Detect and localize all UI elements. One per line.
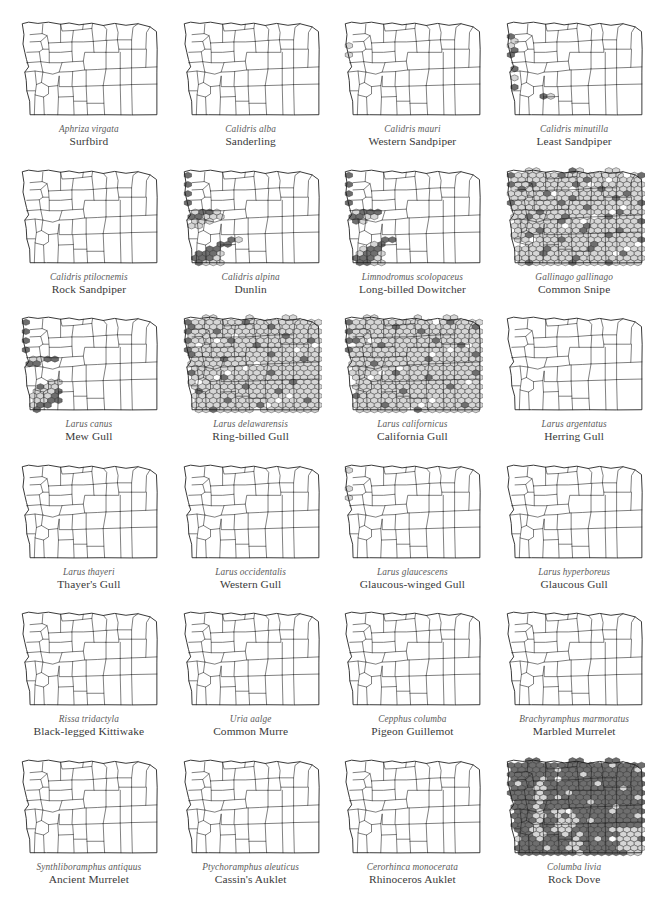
county-boundary [131,674,156,675]
county-boundary [25,71,43,72]
county-boundary [72,467,83,485]
county-boundary [631,67,642,68]
oregon-distribution-map[interactable] [503,313,645,417]
county-boundary [282,823,283,853]
county-boundary [131,174,149,196]
oregon-distribution-map[interactable] [503,166,645,270]
oregon-distribution-map[interactable] [180,461,322,565]
county-boundary [234,24,245,42]
county-boundary [558,347,579,356]
oregon-distribution-map[interactable] [341,461,483,565]
county-boundary [106,24,118,41]
county-boundary [72,614,83,632]
county-boundary [248,86,265,104]
scientific-name: Calidris ptilocnemis [50,272,128,282]
county-boundary [26,209,40,210]
county-boundary [202,478,208,484]
county-boundary [544,382,559,392]
oregon-distribution-map[interactable] [180,313,322,417]
oregon-distribution-map[interactable] [180,166,322,270]
oregon-distribution-map[interactable] [18,18,160,122]
county-boundary [255,468,268,484]
oregon-distribution-map[interactable] [18,608,160,712]
oregon-distribution-map[interactable] [180,18,322,122]
county-boundary [444,215,455,232]
county-boundary [293,492,308,511]
county-boundary [268,197,281,200]
county-boundary [455,469,473,491]
county-boundary [93,40,106,52]
county-boundary [410,823,427,841]
county-boundary [34,95,35,115]
county-boundary [35,675,48,687]
county-boundary [534,641,557,652]
county-boundary [248,69,268,86]
county-boundary [43,245,44,263]
county-boundary [524,494,534,505]
county-boundary [48,632,71,642]
county-boundary [591,466,603,483]
county-boundary [578,25,591,41]
county-boundary [244,761,254,767]
county-boundary [120,658,131,675]
oregon-distribution-map[interactable] [503,608,645,712]
county-boundary [39,199,49,210]
county-boundary [202,183,208,189]
map-panel: Calidris minutillaLeast Sandpiper [493,18,655,166]
oregon-distribution-map[interactable] [341,166,483,270]
oregon-distribution-map[interactable] [503,756,645,860]
county-boundary [255,40,268,52]
county-boundary [557,614,568,632]
oregon-distribution-map[interactable] [503,461,645,565]
oregon-distribution-map[interactable] [18,756,160,860]
county-boundary [268,761,280,778]
oregon-distribution-map[interactable] [341,313,483,417]
state-outline [22,465,157,558]
oregon-distribution-map[interactable] [180,608,322,712]
county-boundary [407,200,430,218]
county-boundary [512,344,528,347]
oregon-distribution-map[interactable] [341,608,483,712]
county-line-layer [348,24,480,115]
state-outline [507,465,642,558]
county-boundary [34,832,35,852]
county-boundary [60,172,73,179]
panel-caption: Calidris alpinaDunlin [222,272,280,296]
county-boundary [93,615,106,631]
county-boundary [197,514,203,528]
county-boundary [429,495,443,512]
county-boundary [417,778,430,790]
county-boundary [527,614,528,623]
oregon-distribution-map[interactable] [341,18,483,122]
county-boundary [591,492,604,495]
county-boundary [221,809,234,824]
county-boundary [221,662,234,677]
county-boundary [73,513,86,530]
county-boundary [348,514,366,515]
oregon-distribution-map[interactable] [341,756,483,860]
scientific-name: Calidris alpina [222,272,280,282]
oregon-distribution-map[interactable] [503,18,645,122]
county-boundary [117,187,131,196]
map-svg [180,461,322,565]
county-boundary [410,86,427,104]
oregon-distribution-map[interactable] [18,461,160,565]
county-boundary [26,652,40,653]
county-boundary [106,466,118,483]
common-name: Glaucous-winged Gull [360,578,465,591]
county-boundary [74,529,87,544]
oregon-distribution-map[interactable] [180,756,322,860]
county-boundary [235,539,236,557]
county-boundary [519,685,520,705]
county-boundary [534,484,557,494]
county-boundary [131,171,137,187]
county-boundary [455,614,461,630]
oregon-distribution-map[interactable] [18,166,160,270]
county-boundary [358,95,359,115]
county-boundary [210,189,233,199]
oregon-distribution-map[interactable] [18,313,160,417]
county-boundary [455,232,456,262]
county-boundary [455,171,461,187]
county-boundary [35,822,48,834]
county-boundary [527,72,545,87]
